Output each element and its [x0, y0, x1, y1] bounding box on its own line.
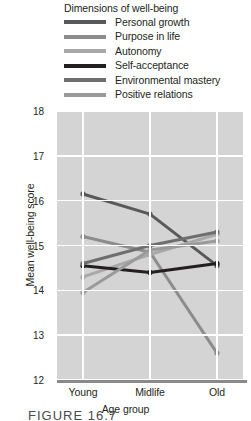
legend-swatch-icon [64, 49, 106, 53]
legend-swatch-icon [64, 20, 106, 24]
legend-item-autonomy: Autonomy [64, 44, 251, 59]
grid-line-vertical [149, 111, 151, 380]
legend-item-environmental-mastery: Environmental mastery [64, 73, 251, 88]
grid-line-vertical [216, 111, 218, 380]
legend-swatch-icon [64, 35, 106, 39]
legend-swatch-icon [64, 64, 106, 68]
y-axis-tick-label: 12 [33, 376, 55, 386]
y-axis-tick-label: 16 [33, 197, 55, 207]
legend-item-label: Self-acceptance [115, 59, 189, 72]
legend-item-self-acceptance: Self-acceptance [64, 59, 251, 74]
y-axis-tick-label: 14 [33, 286, 55, 296]
legend-item-label: Purpose in life [115, 30, 180, 43]
y-axis-tick-label: 13 [33, 331, 55, 341]
x-axis-tick-label: Old [187, 386, 247, 398]
line-chart: Mean well-being score 12131415161718 You… [0, 107, 251, 387]
legend-title: Dimensions of well-being [64, 2, 251, 15]
y-axis-tick-label: 17 [33, 152, 55, 162]
plot-area [57, 111, 243, 380]
legend-item-label: Autonomy [115, 45, 161, 58]
legend-swatch-icon [64, 78, 106, 82]
legend-item-positive-relations: Positive relations [64, 88, 251, 103]
legend-item-purpose-in-life: Purpose in life [64, 30, 251, 45]
y-axis-tick-label: 18 [33, 107, 55, 117]
legend-item-personal-growth: Personal growth [64, 15, 251, 30]
grid-line-vertical [82, 111, 84, 380]
legend-item-label: Environmental mastery [115, 74, 220, 87]
chart-legend: Dimensions of well-being Personal growth… [0, 0, 251, 102]
y-axis-tick-label: 15 [33, 242, 55, 252]
figure-caption: FIGURE 16.7 [28, 408, 117, 421]
x-axis-baseline [57, 380, 247, 383]
legend-item-label: Positive relations [115, 88, 193, 101]
legend-item-label: Personal growth [115, 16, 189, 29]
x-axis-tick-label: Young [53, 386, 113, 398]
legend-swatch-icon [64, 93, 106, 97]
x-axis-tick-label: Midlife [120, 386, 180, 398]
